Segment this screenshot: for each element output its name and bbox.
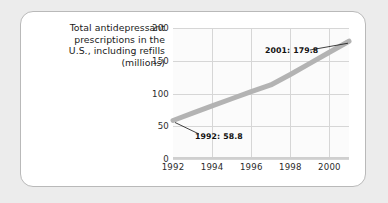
annotation-start-label: 1992: 58.8	[195, 132, 243, 141]
caption-line-1: Total antidepressant	[35, 22, 165, 34]
caption-line-2: prescriptions in the	[35, 34, 165, 46]
y-tick-label: 100	[152, 89, 169, 99]
y-tick-label: 50	[158, 121, 169, 131]
plot-area: 050100150200 19921994199619982000 2001: …	[173, 28, 349, 159]
gridline-horizontal	[173, 159, 349, 160]
annotation-end-label: 2001: 179.8	[265, 46, 318, 55]
caption-line-3: U.S., including refills	[35, 45, 165, 57]
y-tick-label: 200	[152, 23, 169, 33]
x-tick-label: 1998	[279, 162, 302, 172]
figure-caption: Total antidepressant prescriptions in th…	[35, 22, 165, 69]
figure-panel: Total antidepressant prescriptions in th…	[20, 11, 366, 187]
x-tick-label: 1992	[162, 162, 185, 172]
line-chart: 050100150200 19921994199619982000 2001: …	[153, 16, 358, 184]
x-tick-label: 1994	[201, 162, 224, 172]
y-tick-label: 150	[152, 56, 169, 66]
x-tick-label: 1996	[240, 162, 263, 172]
x-tick-label: 2000	[318, 162, 341, 172]
caption-line-4: (millions)	[35, 57, 165, 69]
figure-root: Total antidepressant prescriptions in th…	[0, 0, 388, 203]
